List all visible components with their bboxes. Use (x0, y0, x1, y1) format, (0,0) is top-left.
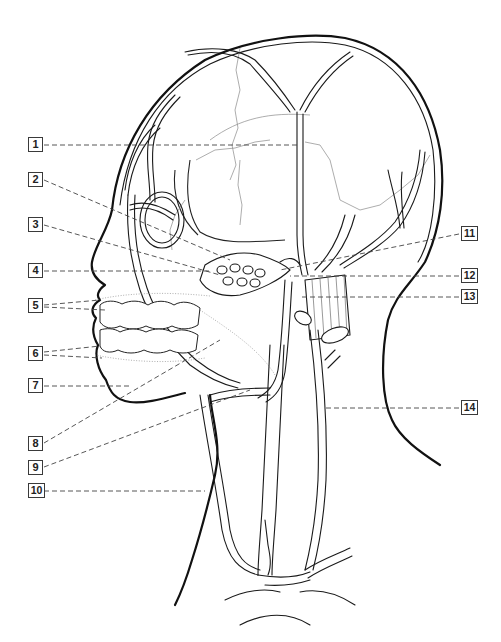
label-5: 5 (28, 298, 43, 313)
teeth (95, 293, 275, 375)
label-12: 12 (461, 268, 478, 283)
anatomical-figure (0, 0, 501, 642)
label-2: 2 (28, 172, 43, 187)
label-14: 14 (461, 400, 478, 415)
label-1: 1 (28, 137, 43, 152)
label-3: 3 (28, 217, 43, 232)
label-11: 11 (461, 226, 478, 241)
label-4: 4 (28, 263, 43, 278)
pterygoid-plexus (200, 253, 300, 296)
label-9: 9 (28, 460, 43, 475)
cranial-sutures (170, 48, 430, 250)
orbital-veins (130, 192, 184, 248)
skull (120, 42, 435, 262)
label-13: 13 (461, 289, 478, 304)
label-8: 8 (28, 436, 43, 451)
label-6: 6 (28, 346, 43, 361)
sternocleidomastoid-muscle (292, 275, 350, 346)
label-10: 10 (28, 483, 45, 498)
label-7: 7 (28, 378, 43, 393)
